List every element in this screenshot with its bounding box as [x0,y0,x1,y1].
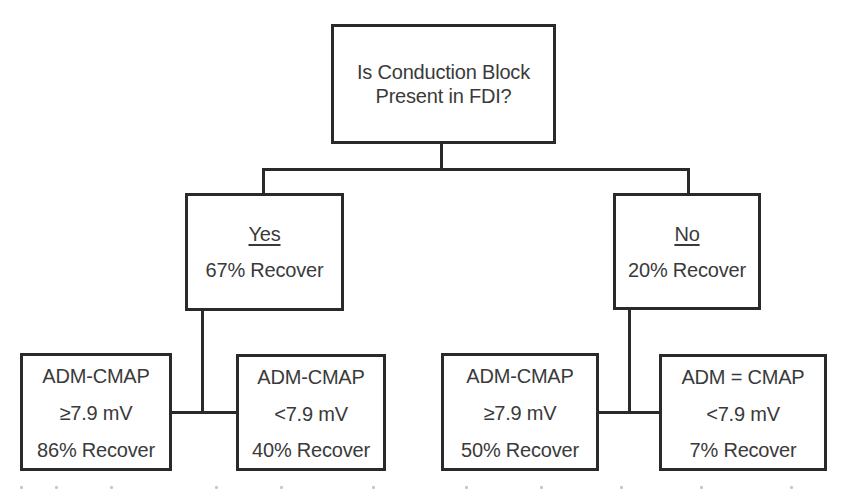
leaf-threshold: <7.9 mV [706,402,780,426]
yes-branch-outcome: 67% Recover [206,258,324,282]
leaf-yes-low: ADM-CMAP <7.9 mV 40% Recover [236,354,386,471]
leaf-outcome: 7% Recover [690,438,797,462]
leaf-outcome: 86% Recover [37,438,155,462]
leaf-threshold: ≥7.9 mV [484,401,557,425]
leaf-measure: ADM-CMAP [257,365,364,389]
yes-branch-box: Yes 67% Recover [185,193,344,311]
yes-branch-label: Yes [248,222,280,246]
leaf-outcome: 40% Recover [252,438,370,462]
leaf-measure: ADM = CMAP [681,365,804,389]
leaf-yes-high: ADM-CMAP ≥7.9 mV 86% Recover [20,353,172,471]
yes-children-connector [170,411,238,414]
leaf-threshold: ≥7.9 mV [60,401,133,425]
no-branch-label: No [674,222,699,246]
leaf-measure: ADM-CMAP [466,364,573,388]
root-question-box: Is Conduction Block Present in FDI? [331,24,556,144]
leaf-measure: ADM-CMAP [42,364,149,388]
no-branch-box: No 20% Recover [613,193,761,310]
no-children-connector [597,411,661,414]
yes-stem [201,309,204,413]
leaf-no-high: ADM-CMAP ≥7.9 mV 50% Recover [441,353,599,471]
root-question-line1: Is Conduction Block [357,60,530,84]
cropped-caption-remnant [0,486,855,492]
root-stem [440,142,443,170]
leaf-outcome: 50% Recover [461,438,579,462]
yes-branch-drop [262,168,265,194]
leaf-threshold: <7.9 mV [274,402,348,426]
no-stem [628,308,631,413]
level1-horizontal-connector [262,168,690,171]
no-branch-drop [687,168,690,194]
leaf-no-low: ADM = CMAP <7.9 mV 7% Recover [659,354,827,471]
no-branch-outcome: 20% Recover [628,258,746,282]
root-question-line2: Present in FDI? [376,84,512,108]
